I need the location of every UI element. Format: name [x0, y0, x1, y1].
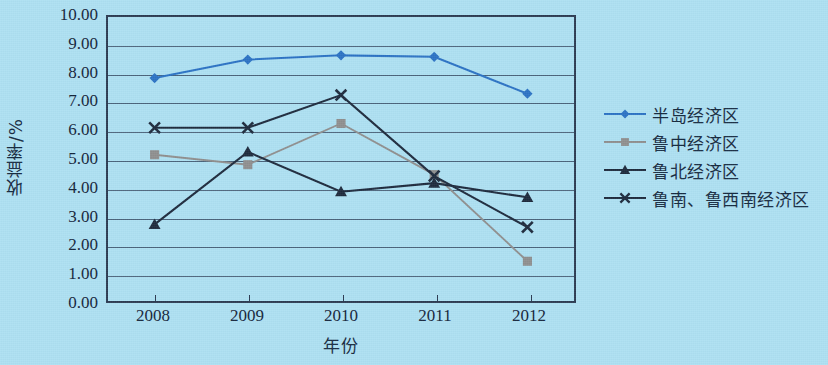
data-point-cross	[522, 222, 533, 233]
legend-key-cross-icon	[604, 189, 646, 207]
series-canvas	[108, 17, 574, 301]
x-axis-title: 年份	[106, 332, 576, 357]
y-axis-tick-label: 9.00	[68, 34, 98, 54]
data-point-diamond	[429, 52, 439, 62]
x-axis-tick-label: 2012	[512, 306, 546, 326]
legend-marker-square-icon	[619, 136, 631, 148]
legend-label: 鲁中经济区	[652, 130, 740, 155]
chart-figure: 收益率/% 10.009.008.007.006.005.004.003.002…	[0, 0, 828, 365]
x-axis-tick-label: 2011	[418, 306, 451, 326]
y-axis-tick-label: 1.00	[68, 264, 98, 284]
y-axis-tick-label: 8.00	[68, 63, 98, 83]
plot-area	[106, 15, 576, 303]
series-1	[149, 50, 532, 99]
data-point-diamond	[149, 73, 159, 83]
legend-label: 鲁南、鲁西南经济区	[652, 186, 810, 211]
data-point-cross	[620, 193, 629, 202]
y-axis-tick-label: 7.00	[68, 91, 98, 111]
legend-item-4[interactable]: 鲁南、鲁西南经济区	[604, 184, 828, 212]
legend-item-2[interactable]: 鲁中经济区	[604, 128, 828, 156]
y-axis-tick-label: 6.00	[68, 120, 98, 140]
data-point-diamond	[243, 54, 253, 64]
legend-key-square-icon	[604, 133, 646, 151]
legend-marker-cross-icon	[619, 192, 631, 204]
data-point-square	[621, 138, 629, 146]
data-point-square	[336, 119, 345, 128]
x-axis-tick-label: 2008	[136, 306, 170, 326]
series-3	[149, 146, 534, 229]
legend-label: 鲁北经济区	[652, 158, 740, 183]
x-axis-tick-label: 2009	[230, 306, 264, 326]
data-point-diamond	[336, 50, 346, 60]
data-point-diamond	[621, 110, 630, 119]
legend-item-3[interactable]: 鲁北经济区	[604, 156, 828, 184]
y-axis-tick-label: 3.00	[68, 207, 98, 227]
x-axis-tick-label: 2010	[324, 306, 358, 326]
data-point-square	[150, 150, 159, 159]
y-axis-tick-label: 10.00	[60, 5, 98, 25]
y-axis-tick-label: 2.00	[68, 235, 98, 255]
legend-key-diamond-icon	[604, 105, 646, 123]
y-axis-tick-label: 5.00	[68, 149, 98, 169]
data-point-square	[523, 257, 532, 266]
chart-legend: 半岛经济区鲁中经济区鲁北经济区鲁南、鲁西南经济区	[604, 100, 828, 212]
y-axis-tick-labels: 10.009.008.007.006.005.004.003.002.001.0…	[30, 0, 102, 320]
y-axis-title: 收益率/%	[2, 92, 28, 222]
legend-key-triangle-icon	[604, 161, 646, 179]
legend-item-1[interactable]: 半岛经济区	[604, 100, 828, 128]
x-axis-tick-labels: 20082009201020112012	[106, 306, 576, 332]
series-line	[155, 55, 528, 93]
y-axis-tick-label: 0.00	[68, 293, 98, 313]
legend-marker-triangle-icon	[619, 164, 631, 176]
data-point-triangle	[620, 165, 630, 174]
data-point-cross	[336, 90, 347, 101]
legend-label: 半岛经济区	[652, 102, 740, 127]
y-axis-tick-label: 4.00	[68, 178, 98, 198]
legend-marker-diamond-icon	[619, 108, 631, 120]
data-point-triangle	[242, 146, 254, 157]
data-point-square	[243, 160, 252, 169]
data-point-diamond	[522, 89, 532, 99]
